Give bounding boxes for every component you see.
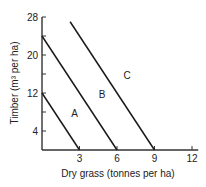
x-tick-label: 12	[186, 153, 198, 164]
line-b	[42, 36, 117, 150]
axes: 369124122028	[27, 12, 198, 165]
line-label-b: B	[99, 89, 106, 100]
y-tick-label: 28	[27, 12, 39, 23]
x-tick-label: 3	[77, 153, 83, 164]
y-tick-label: 4	[32, 126, 38, 137]
line-a	[42, 93, 80, 150]
x-axis-title: Dry grass (tonnes per ha)	[61, 168, 174, 179]
line-label-a: A	[71, 108, 78, 119]
line-c	[70, 22, 154, 150]
production-possibility-chart: 369124122028 ABC Dry grass (tonnes per h…	[0, 0, 206, 187]
y-axis-title: Timber (m³ per ha)	[9, 42, 20, 125]
y-tick-label: 12	[27, 88, 39, 99]
series-lines: ABC	[42, 22, 155, 150]
x-tick-label: 6	[114, 153, 120, 164]
y-tick-label: 20	[27, 50, 39, 61]
line-label-c: C	[123, 70, 130, 81]
x-tick-label: 9	[152, 153, 158, 164]
